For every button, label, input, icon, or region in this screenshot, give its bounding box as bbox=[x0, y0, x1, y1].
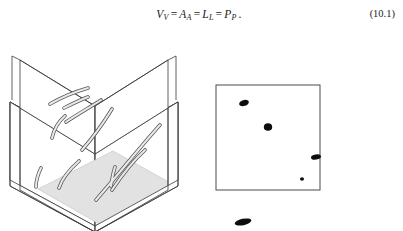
equation-terminator: . bbox=[237, 8, 244, 20]
term-v-base: V bbox=[156, 8, 163, 20]
profile-5 bbox=[234, 217, 252, 227]
equation-expression: VV=AA=LL=PP. bbox=[100, 6, 300, 26]
section-frame bbox=[216, 85, 320, 190]
fiber-cube-svg bbox=[0, 30, 200, 231]
operator-1: = bbox=[169, 8, 180, 20]
term-a-base: A bbox=[179, 8, 186, 20]
profile-4 bbox=[300, 177, 304, 181]
term-a-sub: A bbox=[187, 13, 192, 22]
term-l-sub: L bbox=[209, 13, 214, 22]
section-plane-profiles bbox=[200, 50, 380, 210]
term-l-base: L bbox=[202, 8, 209, 20]
term-v-sub: V bbox=[164, 13, 169, 22]
wall-front-right-thickness bbox=[168, 102, 178, 190]
term-p-sub: P bbox=[232, 13, 237, 22]
term-a: AA bbox=[179, 8, 191, 20]
fiber-cube-diagram bbox=[0, 30, 200, 231]
term-p-base: P bbox=[224, 8, 231, 20]
equation-number: (10.1) bbox=[370, 6, 395, 22]
section-plane-svg bbox=[200, 50, 380, 210]
operator-2: = bbox=[192, 8, 203, 20]
term-p: PP bbox=[224, 8, 236, 20]
figure-page: VV=AA=LL=PP. (10.1) bbox=[0, 0, 403, 231]
equation-row: VV=AA=LL=PP. (10.1) bbox=[0, 6, 403, 28]
term-l: LL bbox=[202, 8, 213, 20]
profile-2 bbox=[264, 123, 272, 131]
operator-3: = bbox=[214, 8, 225, 20]
term-v: VV bbox=[156, 8, 168, 20]
wall-front-left-thickness bbox=[10, 102, 20, 190]
